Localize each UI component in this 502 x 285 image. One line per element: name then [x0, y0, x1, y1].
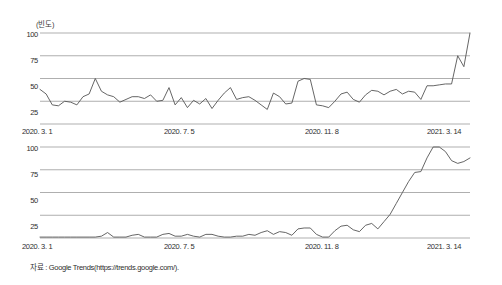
xtick-label-start-bottom: 2020. 3. 1: [22, 242, 52, 251]
source-note: 자료 : Google Trends(https://trends.google…: [30, 261, 179, 272]
data-series-line: [40, 33, 470, 109]
data-series-line: [40, 147, 470, 237]
xtick-label-start-top: 2020. 3. 1: [22, 127, 52, 136]
chart-bottom-plot: [0, 140, 502, 258]
chart-bottom: 100 75 50 25 2020. 3. 1 2020. 7. 5 2020.…: [0, 140, 502, 258]
chart-top: (빈도) 100 75 50 25 2020. 3. 1 2020. 7. 5 …: [0, 6, 502, 138]
xtick-label-end-top: 2021. 3. 14: [427, 127, 461, 136]
figure-root: (빈도) 100 75 50 25 2020. 3. 1 2020. 7. 5 …: [0, 0, 502, 285]
xtick-label-end-bottom: 2021. 3. 14: [427, 242, 461, 251]
xtick-label-mid2-top: 2020. 11. 8: [305, 127, 339, 136]
chart-top-plot: [0, 6, 502, 138]
xtick-label-mid1-bottom: 2020. 7. 5: [164, 242, 194, 251]
xtick-label-mid1-top: 2020. 7. 5: [164, 127, 194, 136]
xtick-label-mid2-bottom: 2020. 11. 8: [305, 242, 339, 251]
